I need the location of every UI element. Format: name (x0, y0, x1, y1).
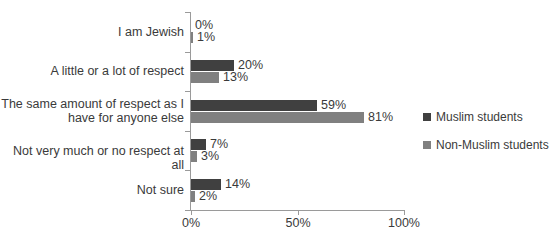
category-label: A little or a lot of respect (51, 64, 184, 78)
category-axis-tick (185, 12, 190, 13)
category-label: I am Jewish (118, 25, 184, 39)
value-axis-tick-label: 100% (374, 216, 434, 230)
bar-value-label: 3% (201, 151, 219, 162)
value-axis-tick (404, 211, 405, 215)
value-axis-tick (298, 211, 299, 215)
category-axis-tick (185, 91, 190, 92)
bar-value-label: 14% (225, 179, 250, 190)
category-axis-tick (185, 210, 190, 211)
category-axis-tick (185, 131, 190, 132)
legend-swatch-icon (423, 113, 431, 121)
legend-swatch-icon (423, 141, 431, 149)
bar-value-label: 13% (223, 72, 248, 83)
value-axis-tick (191, 211, 192, 215)
category-label: Not sure (137, 183, 184, 197)
bar-value-label: 1% (197, 32, 215, 43)
bar-value-label: 2% (199, 191, 217, 202)
chart-bar (191, 100, 317, 111)
value-axis-tick-label: 50% (268, 216, 328, 230)
value-axis-tick-label: 0% (161, 216, 221, 230)
category-label: Not very much or no respect at all (0, 144, 184, 172)
bar-value-label: 81% (368, 112, 393, 123)
chart-bar (191, 112, 364, 123)
chart-bar (191, 191, 195, 202)
bar-value-label: 59% (321, 100, 346, 111)
chart-bar (191, 151, 197, 162)
chart-bar (191, 72, 219, 83)
chart-bar (191, 32, 193, 43)
category-axis-tick (185, 52, 190, 53)
category-label: The same amount of respect as I have for… (1, 97, 184, 125)
legend-item[interactable]: Muslim students (423, 110, 549, 124)
bar-chart: I am Jewish0%1%A little or a lot of resp… (0, 0, 552, 237)
chart-legend: Muslim studentsNon-Muslim students (423, 110, 549, 166)
category-axis-tick (185, 170, 190, 171)
legend-label: Muslim students (436, 110, 523, 124)
legend-item[interactable]: Non-Muslim students (423, 138, 549, 152)
legend-label: Non-Muslim students (436, 138, 549, 152)
